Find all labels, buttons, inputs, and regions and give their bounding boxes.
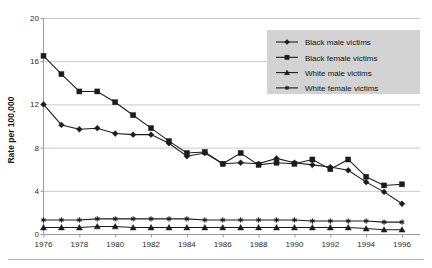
x-tick-label: 1990 [286,240,304,249]
data-point-square [346,157,351,162]
data-point-square [400,182,405,187]
chart-figure: 048121620 197619781980198219841986198819… [0,0,432,268]
x-tick-label: 1992 [321,240,339,249]
data-point-square [382,183,387,188]
data-point-square [285,55,289,59]
chart-legend: Black male victimsBlack female victimsWh… [267,30,420,94]
legend-label: White female victims [305,84,378,93]
data-point-square [113,100,118,105]
y-axis-title: Rate per 100,000 [6,96,16,163]
y-tick-label: 16 [30,57,39,66]
data-point-square [292,161,297,166]
data-point-square [256,162,261,167]
data-point-square [149,126,154,131]
data-point-square [41,53,46,58]
x-tick-label: 1988 [250,240,268,249]
data-point-square [166,139,171,144]
data-point-square [364,174,369,179]
y-tick-label: 8 [35,144,40,153]
x-tick-label: 1980 [106,240,124,249]
x-tick-label: 1996 [393,240,411,249]
data-point-square [184,151,189,156]
x-tick-label: 1994 [357,240,375,249]
line-chart: 048121620 197619781980198219841986198819… [0,0,432,268]
data-point-square [238,151,243,156]
data-point-square [95,89,100,94]
data-point-square [328,167,333,172]
y-tick-label: 20 [30,14,39,23]
data-point-square [220,161,225,166]
x-tick-label: 1986 [214,240,232,249]
legend-label: Black female victims [305,54,377,63]
x-tick-label: 1984 [178,240,196,249]
x-tick-label: 1978 [70,240,88,249]
x-tick-label: 1982 [142,240,160,249]
data-point-square [310,157,315,162]
y-tick-label: 4 [35,187,40,196]
y-tick-label: 0 [35,230,40,239]
legend-label: Black male victims [305,38,371,47]
y-tick-label: 12 [30,100,39,109]
legend-label: White male victims [305,69,372,78]
data-point-square [131,113,136,118]
data-point-square [59,72,64,77]
x-tick-label: 1976 [35,240,53,249]
data-point-square [202,149,207,154]
data-point-square [274,160,279,165]
data-point-square [77,89,82,94]
